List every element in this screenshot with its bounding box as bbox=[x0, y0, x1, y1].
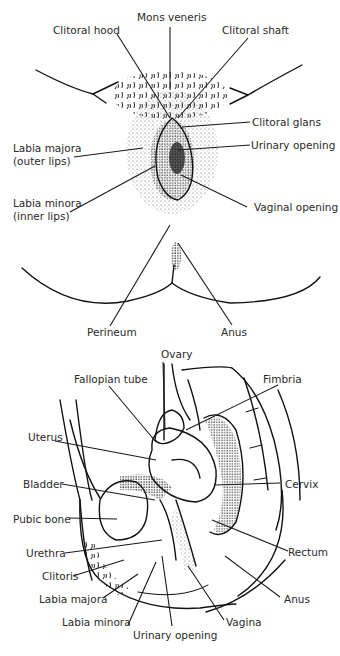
anatomy-diagram: Mons veneris Clitoral hood Clitoral shaf… bbox=[0, 0, 340, 656]
label-clitoral-shaft: Clitoral shaft bbox=[222, 24, 289, 36]
label-fallopian-tube: Fallopian tube bbox=[74, 373, 148, 385]
label-bladder: Bladder bbox=[23, 478, 64, 490]
label-urinary-opening-sagittal: Urinary opening bbox=[133, 629, 217, 641]
external-view-drawing bbox=[22, 27, 320, 326]
label-labia-minora-sub: (inner lips) bbox=[13, 210, 70, 222]
label-uterus: Uterus bbox=[28, 431, 63, 443]
label-urethra: Urethra bbox=[26, 547, 66, 559]
sagittal-view-drawing bbox=[55, 362, 300, 626]
label-cervix: Cervix bbox=[285, 478, 318, 490]
label-labia-minora-sagittal: Labia minora bbox=[62, 616, 131, 628]
label-labia-majora-sub: (outer lips) bbox=[13, 155, 70, 167]
label-perineum: Perineum bbox=[87, 326, 137, 338]
label-labia-minora: Labia minora bbox=[13, 197, 82, 209]
label-clitoral-glans: Clitoral glans bbox=[252, 116, 321, 128]
label-clitoral-hood: Clitoral hood bbox=[53, 24, 120, 36]
label-labia-majora-sagittal: Labia majora bbox=[39, 593, 107, 605]
label-urinary-opening: Urinary opening bbox=[251, 139, 335, 151]
label-fimbria: Fimbria bbox=[263, 373, 302, 385]
label-labia-majora: Labia majora bbox=[13, 142, 81, 154]
label-vagina: Vagina bbox=[226, 616, 261, 628]
label-rectum: Rectum bbox=[288, 546, 328, 558]
label-pubic-bone: Pubic bone bbox=[13, 513, 71, 525]
label-anus-sagittal: Anus bbox=[284, 593, 310, 605]
label-clitoris: Clitoris bbox=[42, 570, 78, 582]
label-anus-external: Anus bbox=[221, 326, 247, 338]
label-ovary: Ovary bbox=[161, 348, 192, 360]
label-mons-veneris: Mons veneris bbox=[137, 11, 206, 23]
label-vaginal-opening: Vaginal opening bbox=[254, 201, 338, 213]
